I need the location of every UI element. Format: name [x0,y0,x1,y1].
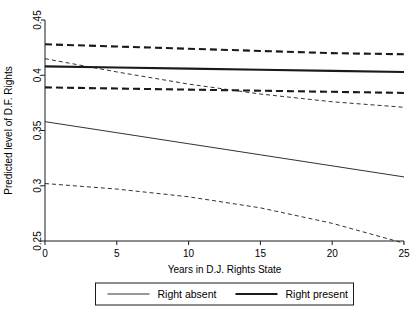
series-line [45,59,404,108]
x-axis-title: Years in D.J. Rights State [168,264,282,275]
y-tick-label: 0.3 [32,178,43,192]
y-axis: 0.250.30.350.40.45 [32,10,46,251]
series-line [45,44,404,54]
y-tick-label: 0.35 [32,120,43,140]
plot-area: 0.250.30.350.40.45 0510152025 Predicted … [0,0,418,311]
series-line [45,122,404,177]
x-tick-label: 10 [183,248,195,259]
x-tick-label: 0 [42,248,48,259]
x-tick-label: 25 [398,248,410,259]
y-axis-title: Predicted level of D.F. Rights [3,66,14,194]
legend-label: Right present [286,288,349,300]
x-tick-label: 5 [114,248,120,259]
x-axis: 0510152025 [42,241,410,259]
series-group [45,44,404,243]
y-tick-label: 0.25 [32,231,43,251]
legend: Right absentRight present [96,283,354,305]
legend-label: Right absent [158,288,217,300]
x-tick-label: 20 [327,248,339,259]
y-tick-label: 0.4 [32,68,43,82]
chart-root: 0.250.30.350.40.45 0510152025 Predicted … [0,0,418,311]
series-line [45,87,404,93]
y-tick-group: 0.250.30.350.40.45 [32,10,46,251]
chart-svg: 0.250.30.350.40.45 0510152025 Predicted … [0,0,418,311]
y-tick-label: 0.45 [32,10,43,30]
x-tick-label: 15 [255,248,267,259]
series-line [45,184,404,244]
x-tick-group: 0510152025 [42,241,410,259]
series-line [45,66,404,72]
